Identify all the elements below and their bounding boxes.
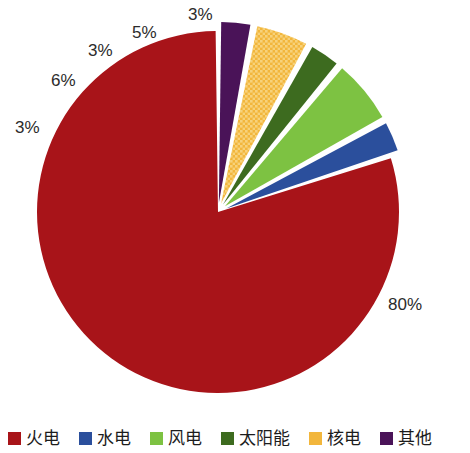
slice-label-wind: 6%: [51, 72, 76, 89]
pie-chart-canvas: [0, 0, 470, 410]
slice-label-solar: 3%: [88, 42, 113, 59]
pie-chart: 80% 3% 6% 3% 5% 3% 火电水电风电太阳能核电其他: [0, 0, 470, 453]
pie-slices: [37, 22, 399, 393]
legend-label: 风电: [168, 430, 202, 447]
legend-swatch: [380, 432, 393, 445]
legend-swatch: [8, 432, 21, 445]
legend-label: 核电: [327, 430, 361, 447]
legend-item: 核电: [309, 430, 361, 447]
legend-item: 太阳能: [221, 430, 290, 447]
legend-label: 火电: [26, 430, 60, 447]
legend-item: 火电: [8, 430, 60, 447]
legend-swatch: [309, 432, 322, 445]
legend-swatch: [79, 432, 92, 445]
legend-item: 水电: [79, 430, 131, 447]
legend-item: 其他: [380, 430, 432, 447]
slice-label-hydro: 3%: [15, 119, 40, 136]
legend-swatch: [221, 432, 234, 445]
slice-label-thermal: 80%: [388, 296, 422, 313]
legend: 火电水电风电太阳能核电其他: [0, 424, 470, 453]
legend-swatch: [150, 432, 163, 445]
slice-label-other: 3%: [188, 6, 213, 23]
legend-label: 其他: [398, 430, 432, 447]
legend-label: 太阳能: [239, 430, 290, 447]
legend-item: 风电: [150, 430, 202, 447]
slice-label-nuclear: 5%: [132, 24, 157, 41]
legend-label: 水电: [97, 430, 131, 447]
